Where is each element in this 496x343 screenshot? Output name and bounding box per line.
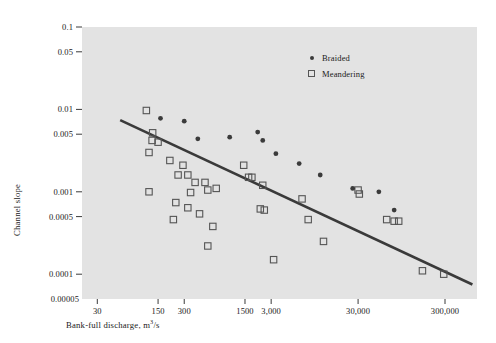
y-tick-label: 0.001 <box>0 187 73 197</box>
y-tick-label: 0.01 <box>0 104 73 114</box>
open-square-icon <box>305 70 318 77</box>
y-axis-title: Channel slope <box>12 184 22 236</box>
braided-point <box>318 173 323 178</box>
meandering-point <box>196 211 202 217</box>
meandering-point <box>143 107 149 113</box>
y-axis-tick-marks <box>76 27 82 274</box>
x-axis-title: Bank-full discharge, m3/s <box>66 318 160 330</box>
legend-label-braided: Braided <box>322 53 350 63</box>
meandering-point <box>192 179 198 185</box>
chart-figure: 0.10.050.010.0050.0010.00050.00010.00005… <box>0 0 496 343</box>
braided-point <box>260 138 265 143</box>
y-tick-label: 0.05 <box>0 47 73 57</box>
braided-point <box>195 136 200 141</box>
meandering-point <box>175 172 181 178</box>
meandering-point <box>305 216 311 222</box>
meandering-point <box>213 185 219 191</box>
legend-label-meandering: Meandering <box>322 69 365 79</box>
meandering-point <box>146 189 152 195</box>
braided-point <box>273 151 278 156</box>
x-tick-label: 3,000 <box>231 306 311 316</box>
meandering-point <box>210 223 216 229</box>
meandering-point <box>241 162 247 168</box>
meandering-point <box>419 268 425 274</box>
y-tick-label: 0.0001 <box>0 269 73 279</box>
meandering-point <box>180 162 186 168</box>
x-tick-label: 300,000 <box>405 306 485 316</box>
meandering-point <box>167 157 173 163</box>
braided-point <box>392 208 397 213</box>
y-tick-label: 0.00005 <box>0 294 79 304</box>
chart-legend: Braided Meandering <box>305 51 365 83</box>
y-tick-label: 0.005 <box>0 129 73 139</box>
y-tick-label: 0.1 <box>0 22 73 32</box>
x-tick-label: 30,000 <box>318 306 398 316</box>
x-axis-title-text: Bank-full discharge, m <box>66 320 150 330</box>
meandering-point <box>396 218 402 224</box>
chart-overlay <box>0 0 496 343</box>
meandering-point <box>146 149 152 155</box>
meandering-point <box>185 205 191 211</box>
meandering-point <box>320 238 326 244</box>
meandering-point <box>391 218 397 224</box>
meandering-point <box>299 196 305 202</box>
meandering-point <box>185 172 191 178</box>
braided-point <box>376 189 381 194</box>
legend-item-braided: Braided <box>305 51 365 64</box>
meandering-point <box>205 187 211 193</box>
braided-point <box>350 186 355 191</box>
meandering-point <box>173 199 179 205</box>
braided-point <box>255 130 260 135</box>
x-axis-tick-marks <box>97 299 445 304</box>
meandering-point <box>170 216 176 222</box>
meandering-point <box>270 256 276 262</box>
meandering-point <box>187 189 193 195</box>
braided-point <box>227 135 232 140</box>
braided-data-points <box>158 116 396 213</box>
braided-point <box>182 119 187 124</box>
meandering-point <box>383 216 389 222</box>
y-tick-label: 0.0005 <box>0 212 73 222</box>
legend-item-meandering: Meandering <box>305 67 365 80</box>
meandering-point <box>205 243 211 249</box>
braided-point <box>297 161 302 166</box>
braided-point <box>158 116 163 121</box>
meandering-point <box>202 179 208 185</box>
filled-circle-icon <box>305 56 318 60</box>
x-axis-title-unit: /s <box>153 320 159 330</box>
